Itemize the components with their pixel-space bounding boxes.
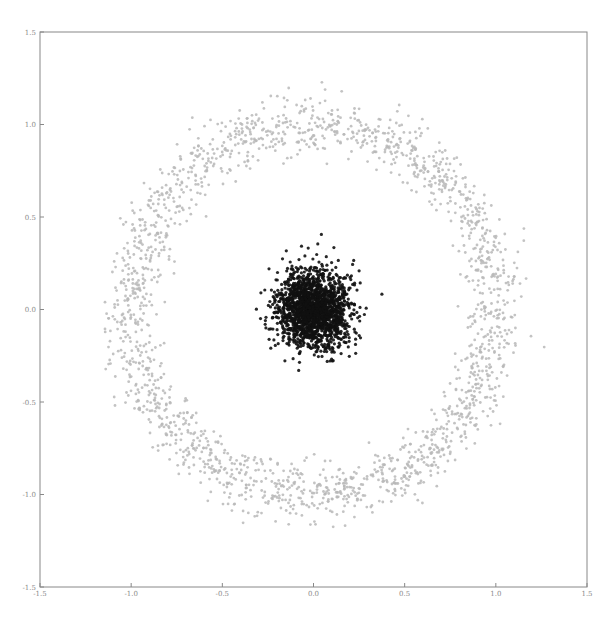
data-point xyxy=(336,345,339,348)
data-point xyxy=(422,164,425,167)
data-point xyxy=(287,335,290,338)
data-point xyxy=(159,274,162,277)
data-point xyxy=(481,227,484,230)
data-point xyxy=(271,498,274,501)
data-point xyxy=(320,263,323,266)
data-point xyxy=(115,289,118,292)
data-point xyxy=(150,224,153,227)
data-point xyxy=(333,488,336,491)
data-point xyxy=(447,414,450,417)
data-point xyxy=(430,409,433,412)
data-point xyxy=(299,149,302,152)
data-point xyxy=(473,442,476,445)
data-point xyxy=(293,335,296,338)
data-point xyxy=(336,336,339,339)
data-point xyxy=(164,207,167,210)
data-point xyxy=(176,143,179,146)
data-point xyxy=(219,155,222,158)
data-point xyxy=(344,293,347,296)
data-point xyxy=(391,130,394,133)
data-point xyxy=(295,322,298,325)
data-point xyxy=(179,184,182,187)
data-point xyxy=(123,247,126,250)
data-point xyxy=(282,313,285,316)
data-point xyxy=(163,342,166,345)
data-point xyxy=(395,122,398,125)
data-point xyxy=(319,124,322,127)
data-point xyxy=(316,242,319,245)
data-point xyxy=(381,501,384,504)
data-point xyxy=(179,412,182,415)
data-point xyxy=(405,477,408,480)
data-point xyxy=(277,479,280,482)
data-point xyxy=(334,266,337,269)
data-point xyxy=(336,495,339,498)
data-point xyxy=(242,521,245,524)
data-point xyxy=(312,323,315,326)
data-point xyxy=(392,492,395,495)
data-point xyxy=(305,456,308,459)
data-point xyxy=(185,419,188,422)
data-point xyxy=(422,171,425,174)
data-point xyxy=(512,351,515,354)
data-point xyxy=(477,365,480,368)
data-point xyxy=(467,214,470,217)
data-point xyxy=(295,340,298,343)
data-point xyxy=(470,258,473,261)
data-point xyxy=(287,502,290,505)
data-point xyxy=(447,460,450,463)
data-point xyxy=(199,457,202,460)
data-point xyxy=(231,462,234,465)
data-point xyxy=(322,147,325,150)
data-point xyxy=(335,320,338,323)
data-point xyxy=(114,286,117,289)
data-point xyxy=(505,282,508,285)
data-point xyxy=(379,466,382,469)
data-point xyxy=(317,483,320,486)
x-tick-label: -0.5 xyxy=(216,590,230,598)
data-point xyxy=(382,463,385,466)
data-point xyxy=(338,276,341,279)
data-point xyxy=(182,412,185,415)
data-point xyxy=(139,209,142,212)
data-point xyxy=(246,155,249,158)
data-point xyxy=(347,333,350,336)
data-point xyxy=(297,369,300,372)
data-point xyxy=(190,152,193,155)
data-point xyxy=(142,312,145,315)
data-point xyxy=(485,218,488,221)
data-point xyxy=(433,457,436,460)
data-point xyxy=(140,229,143,232)
data-point xyxy=(422,481,425,484)
data-point xyxy=(140,257,143,260)
data-point xyxy=(314,121,317,124)
scatter-chart: -1.5-1.0-0.50.00.51.01.5 -1.5-1.0-0.50.0… xyxy=(0,0,607,620)
data-point xyxy=(358,319,361,322)
data-point xyxy=(129,336,132,339)
data-point xyxy=(155,221,158,224)
data-point xyxy=(270,480,273,483)
data-point xyxy=(284,121,287,124)
y-tick-label: 1.5 xyxy=(25,29,36,37)
data-point xyxy=(470,365,473,368)
series-inner-cluster xyxy=(255,233,384,372)
data-point xyxy=(307,129,310,132)
data-point xyxy=(493,350,496,353)
data-point xyxy=(483,261,486,264)
data-point xyxy=(336,311,339,314)
data-point xyxy=(315,336,318,339)
data-point xyxy=(473,313,476,316)
data-point xyxy=(438,188,441,191)
data-point xyxy=(252,484,255,487)
data-point xyxy=(326,126,329,129)
data-point xyxy=(212,430,215,433)
data-point xyxy=(493,394,496,397)
data-point xyxy=(434,151,437,154)
data-point xyxy=(435,446,438,449)
data-point xyxy=(184,400,187,403)
data-point xyxy=(305,143,308,146)
data-point xyxy=(105,312,108,315)
data-point xyxy=(320,340,323,343)
data-point xyxy=(229,492,232,495)
data-point xyxy=(271,117,274,120)
